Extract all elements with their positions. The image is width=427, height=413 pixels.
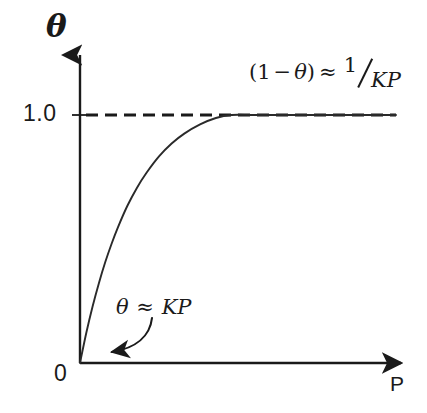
slanted-fraction: 1 KP	[344, 57, 401, 87]
minus-operator: −	[271, 62, 295, 83]
y-tick-label-1.0: 1.0	[23, 102, 56, 125]
kp-term: KP	[162, 295, 192, 319]
numeral-one: 1	[257, 62, 270, 83]
annotation-low-pressure-limit: θ ≈ KP	[116, 297, 191, 318]
paren-open: (	[249, 62, 257, 83]
isotherm-curve	[80, 115, 396, 363]
annotation-high-pressure-limit: ( 1 − θ ) ≈ 1 KP	[249, 57, 401, 87]
approx-operator: ≈	[135, 295, 155, 319]
origin-label: 0	[54, 362, 67, 385]
paren-close: )	[307, 62, 315, 83]
approx-operator: ≈	[315, 62, 341, 83]
langmuir-isotherm-figure: θ P 1.0 0 ( 1 − θ ) ≈ 1 KP θ ≈ KP	[0, 0, 427, 413]
fraction-denominator: KP	[371, 70, 401, 91]
x-axis-label: P	[390, 373, 404, 394]
theta-symbol: θ	[294, 62, 307, 83]
fraction-numerator: 1	[344, 55, 357, 76]
low-pressure-pointer-arrow	[112, 318, 152, 352]
theta-symbol: θ	[116, 295, 129, 319]
y-axis-label: θ	[46, 11, 67, 42]
